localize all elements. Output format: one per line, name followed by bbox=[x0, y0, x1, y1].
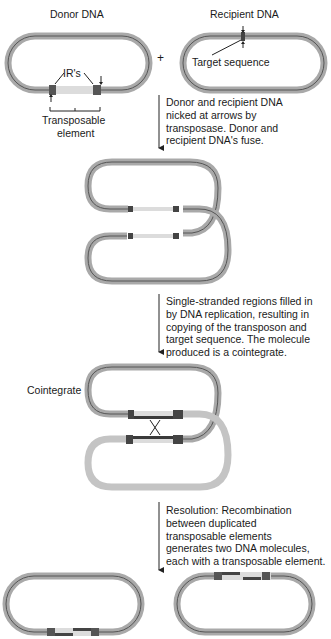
step-2-description: Single-stranded regions filled in by DNA… bbox=[166, 295, 313, 359]
ir-pointer-right bbox=[84, 73, 93, 84]
transposon-bracket bbox=[50, 107, 100, 111]
ir-right bbox=[93, 85, 101, 95]
irs-label: IR's bbox=[63, 67, 81, 80]
target-pointer bbox=[212, 40, 241, 55]
transposon-segment bbox=[52, 86, 98, 94]
ir-left bbox=[49, 85, 56, 95]
step-3-description: Resolution: Recombination between duplic… bbox=[166, 504, 325, 568]
product-ring-2 bbox=[177, 572, 312, 632]
donor-dna-label: Donor DNA bbox=[50, 8, 104, 21]
product-ring-1 bbox=[6, 576, 141, 636]
step-1-description: Donor and recipient DNA nicked at arrows… bbox=[166, 96, 283, 147]
recipient-dna-label: Recipient DNA bbox=[210, 8, 279, 21]
target-sequence-label: Target sequence bbox=[192, 56, 270, 69]
single-strand-top bbox=[131, 207, 173, 211]
cointegrate-label: Cointegrate bbox=[27, 384, 81, 397]
single-strand-bottom bbox=[131, 234, 173, 238]
plus-sign: + bbox=[157, 52, 164, 65]
transposable-label: Transposable bbox=[42, 114, 105, 127]
target-sequence-box bbox=[241, 32, 245, 41]
fused-intermediate bbox=[88, 162, 228, 281]
cointegrate-molecule bbox=[88, 367, 228, 487]
element-label: element bbox=[57, 127, 94, 140]
